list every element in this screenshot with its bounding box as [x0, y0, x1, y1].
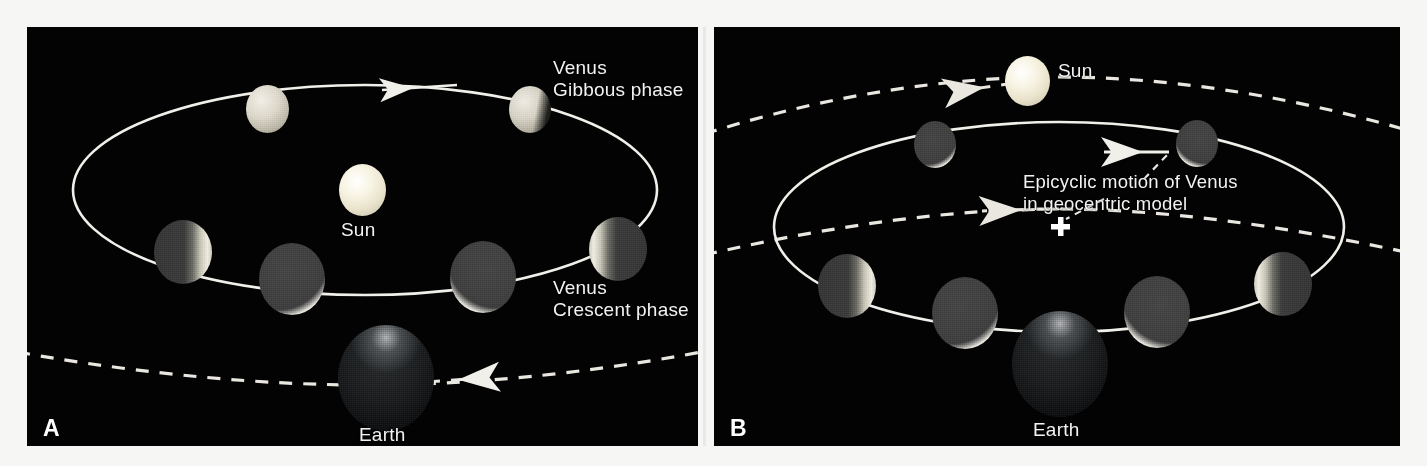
figure-root: Sun Earth Venus Gibbous phase Venus Cres… — [0, 0, 1427, 466]
earth-orbit-direction-arrow — [427, 377, 497, 382]
earth-label-a: Earth — [359, 424, 405, 446]
venus-left-a — [154, 220, 212, 284]
venus-upper-left-b — [914, 121, 956, 168]
venus-deferent-dashed-path — [714, 209, 1400, 255]
venus-crescent-phase-label: Venus Crescent phase — [553, 277, 689, 322]
venus-upper-left-a — [246, 85, 289, 133]
venus-lower-left-b — [932, 277, 998, 349]
panel-a-heliocentric: Sun Earth Venus Gibbous phase Venus Cres… — [27, 27, 698, 446]
panel-b-letter: B — [730, 417, 747, 440]
venus-lower-right-b — [1124, 276, 1190, 348]
venus-gibbous-phase-label: Venus Gibbous phase — [553, 57, 683, 102]
sun-label-b: Sun — [1058, 60, 1092, 82]
venus-lower-left-a — [259, 243, 325, 315]
earth-label-b: Earth — [1033, 419, 1079, 441]
venus-right-a — [589, 217, 647, 281]
sun-deferent-dashed-path — [714, 77, 1400, 134]
epicyclic-motion-label: Epicyclic motion of Venus in geocentric … — [1023, 171, 1238, 215]
venus-left-b — [818, 254, 876, 318]
panel-a-letter: A — [43, 417, 60, 440]
sun-sphere-a — [339, 164, 386, 216]
venus-right-b — [1254, 252, 1312, 316]
earth-globe-b — [1012, 311, 1108, 417]
venus-upper-right-b — [1176, 120, 1218, 167]
sun-sphere-b — [1005, 56, 1050, 106]
venus-upper-right-a — [509, 86, 551, 133]
panel-divider — [703, 27, 706, 446]
epicycle-center-plus-icon — [1051, 217, 1070, 236]
venus-lower-right-a — [450, 241, 516, 313]
sun-label-a: Sun — [341, 219, 375, 241]
earth-globe-a — [338, 325, 434, 431]
sun-deferent-direction-arrow — [946, 83, 1014, 93]
panel-b-geocentric: Sun Earth Epicyclic motion of Venus in g… — [714, 27, 1400, 446]
